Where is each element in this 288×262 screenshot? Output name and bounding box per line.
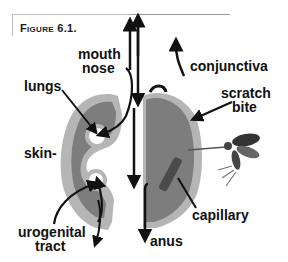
label-urogenital: urogenital	[18, 225, 86, 239]
left-body-half	[61, 94, 122, 230]
label-conjunctiva: conjunctiva	[190, 59, 268, 73]
label-anus: anus	[150, 234, 183, 248]
label-mouth: mouth	[78, 47, 121, 61]
label-tract: tract	[35, 239, 65, 253]
label-skin: skin-	[24, 146, 57, 160]
label-bite: bite	[232, 100, 257, 114]
label-nose: nose	[82, 61, 115, 75]
label-capillary: capillary	[192, 208, 249, 222]
label-scratch: scratch	[221, 86, 271, 100]
label-lungs: lungs	[24, 79, 61, 93]
